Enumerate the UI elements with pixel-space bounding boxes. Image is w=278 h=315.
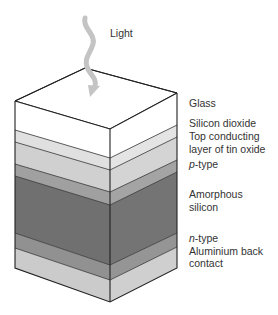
solar-cell-diagram <box>0 0 278 315</box>
left-face <box>15 101 110 302</box>
label-p-type-suffix: -type <box>195 158 218 170</box>
right-face <box>110 93 177 302</box>
label-amorphous-line1: Amorphous <box>189 188 243 201</box>
label-p-type: p-type <box>189 158 218 171</box>
label-tin-oxide-line2: layer of tin oxide <box>189 143 265 156</box>
label-n-type: n-type <box>189 232 218 245</box>
label-aluminium-line2: contact <box>189 257 223 270</box>
light-label: Light <box>110 27 133 39</box>
label-amorphous-line2: silicon <box>189 201 218 214</box>
label-silicon-dioxide: Silicon dioxide <box>189 117 256 130</box>
label-n-type-suffix: -type <box>195 232 218 244</box>
label-glass: Glass <box>189 97 216 110</box>
label-tin-oxide-line1: Top conducting <box>189 130 260 143</box>
